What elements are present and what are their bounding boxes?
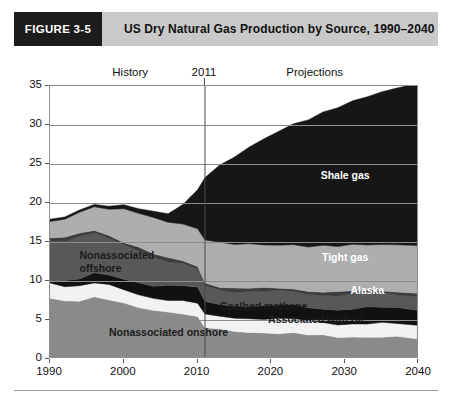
y-tick-label: 30 — [8, 117, 42, 129]
figure-title-wrap: US Dry Natural Gas Production by Source,… — [102, 12, 438, 46]
x-tick-mark — [270, 359, 271, 363]
y-tick-label: 5 — [8, 312, 42, 324]
y-tick-label: 15 — [8, 234, 42, 246]
y-tick-label: 35 — [8, 78, 42, 90]
y-tick-label: 20 — [8, 195, 42, 207]
x-tick-mark — [417, 359, 418, 363]
x-tick-label: 2040 — [395, 365, 441, 377]
x-tick-label: 2020 — [247, 365, 293, 377]
divider-year-label: 2011 — [159, 66, 249, 78]
figure-title: US Dry Natural Gas Production by Source,… — [124, 22, 434, 36]
projections-label: Projections — [270, 66, 360, 78]
bottom-divider — [14, 390, 438, 391]
chart-container: Trillion Cubic Feet History2011Projectio… — [0, 48, 452, 388]
divider-tick-2011 — [204, 78, 205, 85]
x-tick-mark — [49, 359, 50, 363]
x-tick-label: 2030 — [321, 365, 367, 377]
figure-number-label: FIGURE 3-5 — [25, 23, 91, 35]
x-tick-label: 2010 — [174, 365, 220, 377]
figure-number-box: FIGURE 3-5 — [14, 12, 102, 46]
y-tick-label: 25 — [8, 156, 42, 168]
year-divider-line — [50, 86, 418, 358]
x-tick-mark — [344, 359, 345, 363]
y-tick-label: 10 — [8, 273, 42, 285]
x-tick-label: 2000 — [100, 365, 146, 377]
figure-page: FIGURE 3-5 US Dry Natural Gas Production… — [0, 0, 452, 405]
x-tick-mark — [197, 359, 198, 363]
figure-header: FIGURE 3-5 US Dry Natural Gas Production… — [14, 12, 438, 46]
y-tick-label: 0 — [8, 351, 42, 363]
x-tick-mark — [123, 359, 124, 363]
plot-area: Shale gasTight gasAlaskaCoalbed methaneA… — [49, 85, 418, 358]
x-tick-label: 1990 — [26, 365, 72, 377]
